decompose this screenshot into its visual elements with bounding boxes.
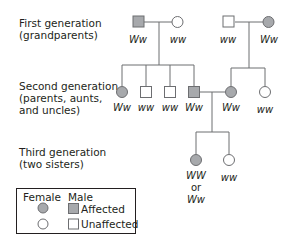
genotype-label: ww <box>250 104 280 115</box>
genotype-label: Ww <box>216 102 246 113</box>
gen2-affected-female-symbol <box>117 87 128 98</box>
legend-unaffected-male-icon <box>69 219 79 229</box>
genotype-label: Ww <box>181 194 211 205</box>
gen1-affected-male-symbol <box>133 16 144 27</box>
gen1-unaffected-female-symbol <box>172 17 183 28</box>
gen2-unaffected-male-symbol <box>141 87 152 98</box>
legend-unaffected-label: Unaffected <box>81 218 138 230</box>
legend-affected-female-icon <box>38 203 48 213</box>
legend-unaffected-female-icon <box>38 219 48 229</box>
genotype-label: WW <box>181 170 211 181</box>
gen3-affected-sister-symbol <box>191 155 202 166</box>
legend: Female Male Affected Unaffected <box>16 188 136 234</box>
gen2-unaffected-male-symbol <box>165 87 176 98</box>
legend-affected-male-icon <box>69 204 79 214</box>
genotype-label: ww <box>163 34 193 45</box>
gen1-unaffected-male-symbol <box>223 16 234 27</box>
legend-affected-label: Affected <box>81 203 125 215</box>
genotype-label: Ww <box>179 102 209 113</box>
genotype-label: Ww <box>123 34 153 45</box>
genotype-label: ww <box>214 172 244 183</box>
genotype-label: ww <box>213 34 243 45</box>
gen1-affected-female-symbol <box>263 17 274 28</box>
gen3-unaffected-sister-symbol <box>224 155 235 166</box>
genotype-label: Ww <box>254 34 284 45</box>
genotype-or-label: or <box>181 182 211 193</box>
gen2-affected-female-symbol <box>226 87 237 98</box>
gen2-affected-male-symbol <box>189 87 200 98</box>
gen2-unaffected-female-symbol <box>260 87 271 98</box>
